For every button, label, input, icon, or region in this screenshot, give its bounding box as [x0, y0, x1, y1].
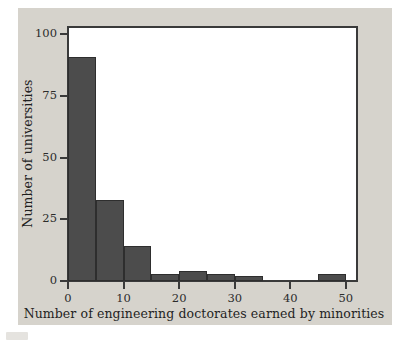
x-tick-label: 30 [220, 291, 250, 305]
plot-frame-top [68, 26, 358, 28]
histogram-bar [96, 200, 124, 281]
x-tick-label: 20 [164, 291, 194, 305]
x-tick-mark [67, 281, 69, 289]
x-tick-mark [123, 281, 125, 289]
histogram-bar [235, 276, 263, 281]
histogram-figure: 0255075100 01020304050 Number of enginee… [0, 0, 408, 346]
y-tick-mark [60, 157, 68, 159]
x-tick-mark [345, 281, 347, 289]
x-tick-mark [234, 281, 236, 289]
y-tick-mark [60, 95, 68, 97]
histogram-bar [179, 271, 207, 281]
x-tick-label: 50 [331, 291, 361, 305]
x-tick-label: 0 [53, 291, 83, 305]
x-tick-mark [178, 281, 180, 289]
histogram-bar [151, 274, 179, 281]
y-tick-label: 100 [24, 26, 57, 40]
x-tick-label: 10 [109, 291, 139, 305]
y-tick-mark [60, 33, 68, 35]
histogram-bar [207, 274, 235, 281]
scan-artifact [6, 332, 28, 340]
x-axis-label: Number of engineering doctorates earned … [0, 306, 408, 321]
plot-frame-right [356, 26, 358, 282]
y-tick-label: 0 [24, 273, 57, 287]
x-tick-mark [289, 281, 291, 289]
histogram-bar [68, 57, 96, 281]
x-tick-label: 40 [275, 291, 305, 305]
histogram-bar [318, 274, 346, 281]
y-tick-mark [60, 218, 68, 220]
y-axis-label: Number of universities [20, 54, 35, 254]
histogram-bar [124, 246, 152, 281]
